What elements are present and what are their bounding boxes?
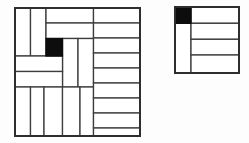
large-deficient-board-tromino-tile [15,56,63,72]
large-deficient-board-tromino-tile [80,87,94,136]
large-deficient-board-tromino-tile [46,8,94,23]
large-deficient-board-tromino-tile [94,68,141,83]
small-deficient-board-removed-square [175,7,191,23]
large-deficient-board-tromino-tile [94,8,141,23]
small-deficient-board-tromino-tile [175,23,191,73]
large-deficient-board-tromino-tile [94,23,141,38]
large-deficient-board-tromino-tile [46,23,94,39]
large-deficient-board-tromino-tile [31,87,45,136]
figure-canvas [0,0,249,143]
large-deficient-board-removed-square [46,39,63,57]
large-deficient-board-tromino-tile [94,113,141,128]
tromino-tiling-diagram [0,0,249,143]
small-deficient-board-tromino-tile [191,55,239,73]
large-deficient-board-tromino-tile [94,128,141,136]
large-deficient-board-tromino-tile [15,72,63,88]
large-deficient-board-tromino-tile [94,83,141,98]
large-deficient-board-tromino-tile [44,87,63,136]
large-deficient-board-tromino-tile [31,8,47,56]
small-deficient-board-tromino-tile [191,7,239,23]
large-deficient-board-tromino-tile [94,98,141,113]
small-deficient-board-tromino-tile [191,23,239,39]
large-deficient-board-tromino-tile [78,39,94,88]
large-deficient-board-tromino-tile [63,39,79,88]
large-deficient-board-tromino-tile [94,53,141,68]
large-deficient-board-tromino-tile [15,87,31,136]
large-deficient-board-tromino-tile [94,38,141,53]
large-deficient-board-tromino-tile [15,8,31,56]
large-deficient-board-tromino-tile [63,87,81,136]
small-deficient-board-tromino-tile [191,39,239,55]
